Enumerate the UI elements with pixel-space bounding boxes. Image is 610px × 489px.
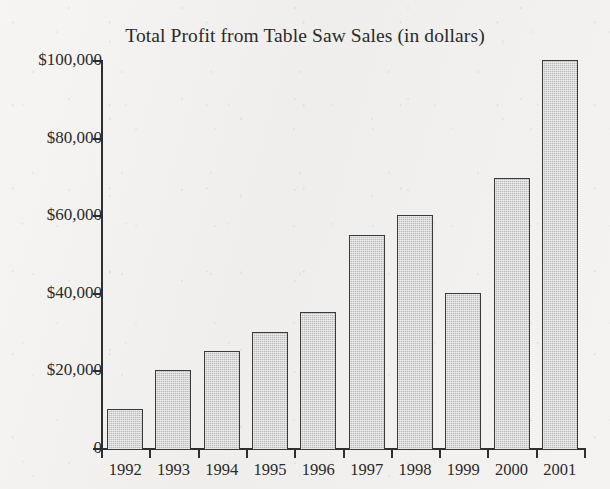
y-axis-tick-label: $60,000 <box>16 206 102 223</box>
bar <box>155 370 191 450</box>
chart-title: Total Profit from Table Saw Sales (in do… <box>0 25 610 47</box>
x-axis-tick-mark <box>391 448 393 458</box>
chart-page: Total Profit from Table Saw Sales (in do… <box>0 0 610 489</box>
x-axis-tick-mark <box>487 448 489 458</box>
bar <box>494 178 530 450</box>
x-axis-tick-mark <box>198 448 200 458</box>
y-axis-tick-label: $20,000 <box>16 361 102 378</box>
y-axis-tick-label: $40,000 <box>16 284 102 301</box>
bar <box>397 215 433 450</box>
x-axis-tick-mark <box>294 448 296 458</box>
x-axis-tick-mark <box>439 448 441 458</box>
x-axis-tick-label: 2001 <box>530 461 590 479</box>
bar <box>542 60 578 450</box>
bar <box>107 409 143 450</box>
bar <box>252 332 288 450</box>
x-axis-tick-mark <box>343 448 345 458</box>
x-axis-tick-mark <box>149 448 151 458</box>
bar <box>300 312 336 450</box>
y-axis-line <box>101 60 103 450</box>
bar <box>349 235 385 450</box>
x-axis-tick-mark <box>101 448 103 458</box>
y-axis-tick-label: 0 <box>16 439 102 456</box>
bar <box>204 351 240 450</box>
x-axis-tick-mark <box>536 448 538 458</box>
y-axis-tick-label: $100,000 <box>16 51 102 68</box>
x-axis-end-tick-mark <box>584 448 586 458</box>
y-axis-tick-label: $80,000 <box>16 129 102 146</box>
x-axis-tick-mark <box>246 448 248 458</box>
bar <box>445 293 481 450</box>
